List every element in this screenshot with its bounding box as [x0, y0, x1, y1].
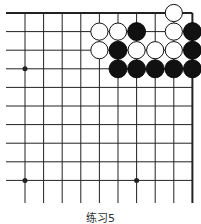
black-stone	[128, 23, 146, 41]
white-stone	[165, 23, 182, 40]
black-stone	[109, 41, 127, 59]
black-stone	[183, 23, 201, 41]
white-stone	[165, 42, 182, 59]
black-stone	[146, 60, 164, 78]
white-stone	[128, 42, 145, 59]
white-stone	[147, 42, 164, 59]
star-point	[23, 178, 28, 183]
white-stone	[109, 23, 126, 40]
star-point	[23, 66, 28, 71]
star-point	[134, 178, 139, 183]
white-stone	[165, 4, 182, 21]
white-stone	[91, 42, 108, 59]
black-stone	[183, 41, 201, 59]
diagram-caption: 练习5	[0, 213, 201, 224]
go-board	[0, 0, 201, 210]
black-stone	[183, 60, 201, 78]
white-stone	[91, 23, 108, 40]
black-stone	[165, 60, 183, 78]
black-stone	[128, 60, 146, 78]
black-stone	[109, 60, 127, 78]
